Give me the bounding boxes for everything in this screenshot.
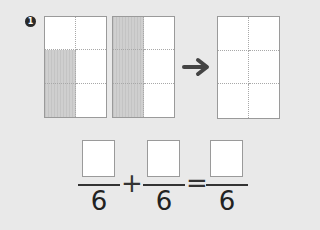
grid-cell[interactable] <box>218 84 249 118</box>
grid-2 <box>112 16 175 118</box>
grid-cell <box>45 17 76 50</box>
equals-operator: = <box>186 168 208 198</box>
grid-cell <box>76 50 107 83</box>
grid-cell <box>76 17 107 50</box>
numerator-input-2[interactable] <box>147 140 180 177</box>
denominator-2: 6 <box>146 186 182 216</box>
grid-cell[interactable] <box>249 51 280 85</box>
grid-cell-shaded <box>45 50 76 83</box>
grid-result[interactable] <box>217 16 280 119</box>
grid-cell[interactable] <box>218 51 249 85</box>
grid-cell <box>144 84 175 117</box>
numerator-input-1[interactable] <box>82 140 115 177</box>
grid-cell-shaded <box>113 17 144 50</box>
grid-cell[interactable] <box>249 17 280 51</box>
denominator-1: 6 <box>81 186 117 216</box>
grid-cell-shaded <box>113 84 144 117</box>
grid-cell <box>144 17 175 50</box>
grid-cell-shaded <box>113 50 144 83</box>
grid-cell-shaded <box>45 84 76 117</box>
grid-cell <box>76 84 107 117</box>
grid-cell[interactable] <box>218 17 249 51</box>
grid-cell[interactable] <box>249 84 280 118</box>
right-arrow-icon <box>182 57 212 77</box>
grid-1 <box>44 16 107 118</box>
denominator-3: 6 <box>209 186 245 216</box>
plus-operator: + <box>121 168 143 198</box>
problem-number-badge: 1 <box>25 16 36 27</box>
grid-cell <box>144 50 175 83</box>
numerator-input-3[interactable] <box>210 140 243 177</box>
